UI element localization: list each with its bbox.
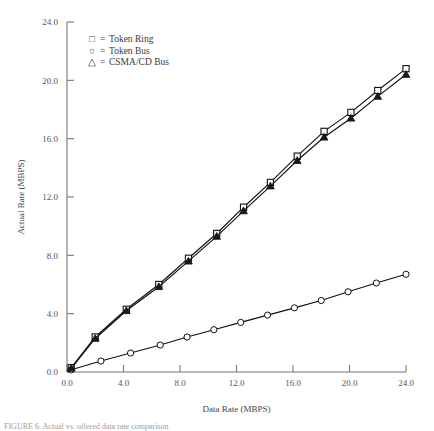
x-axis-tick-label: 20.0	[342, 378, 358, 388]
data-point-marker	[264, 312, 270, 318]
data-point-marker	[345, 289, 351, 295]
chart-figure: 0.04.08.012.016.020.024.00.04.08.012.016…	[0, 0, 434, 431]
legend-marker-glyph: ○	[89, 46, 95, 56]
data-point-marker	[127, 350, 133, 356]
legend-equals-sign: =	[100, 34, 105, 44]
legend-label: Token Bus	[109, 46, 150, 56]
y-axis-tick-label: 16.0	[42, 134, 58, 144]
legend-equals-sign: =	[100, 46, 105, 56]
legend-marker-glyph: △	[88, 57, 96, 67]
figure-caption: FIGURE 6. Actual vs. offered data rate c…	[4, 422, 434, 431]
x-axis-tick-label: 24.0	[398, 378, 414, 388]
data-point-marker	[98, 358, 104, 364]
y-axis-tick-label: 4.0	[47, 309, 59, 319]
y-axis-tick-label: 12.0	[42, 192, 58, 202]
y-axis-tick-label: 24.0	[42, 17, 58, 27]
x-axis-tick-label: 8.0	[174, 378, 186, 388]
data-point-marker	[157, 342, 163, 348]
data-point-marker	[211, 327, 217, 333]
y-axis-tick-label: 8.0	[47, 251, 59, 261]
x-axis-title: Data Rate (MBPS)	[203, 404, 271, 414]
legend-equals-sign: =	[100, 57, 105, 67]
data-point-marker	[291, 305, 297, 311]
chart-plot-area: 0.04.08.012.016.020.024.00.04.08.012.016…	[0, 0, 434, 431]
x-axis-tick-label: 12.0	[229, 378, 245, 388]
data-point-marker	[373, 280, 379, 286]
y-axis-tick-label: 0.0	[47, 367, 59, 377]
data-point-marker	[403, 271, 409, 277]
data-point-marker	[318, 297, 324, 303]
series-token-bus	[68, 271, 409, 373]
x-axis-tick-label: 16.0	[285, 378, 301, 388]
legend-label: CSMA/CD Bus	[109, 57, 169, 67]
y-axis-title: Actual Rate (MBPS)	[16, 160, 26, 235]
data-point-marker	[238, 319, 244, 325]
x-axis-tick-label: 4.0	[118, 378, 130, 388]
series-csma-cd-bus	[67, 71, 409, 372]
data-point-marker	[184, 334, 190, 340]
y-axis-tick-label: 20.0	[42, 76, 58, 86]
legend-label: Token Ring	[109, 34, 154, 44]
x-axis-tick-label: 0.0	[61, 378, 73, 388]
legend-marker-glyph: □	[89, 34, 95, 44]
